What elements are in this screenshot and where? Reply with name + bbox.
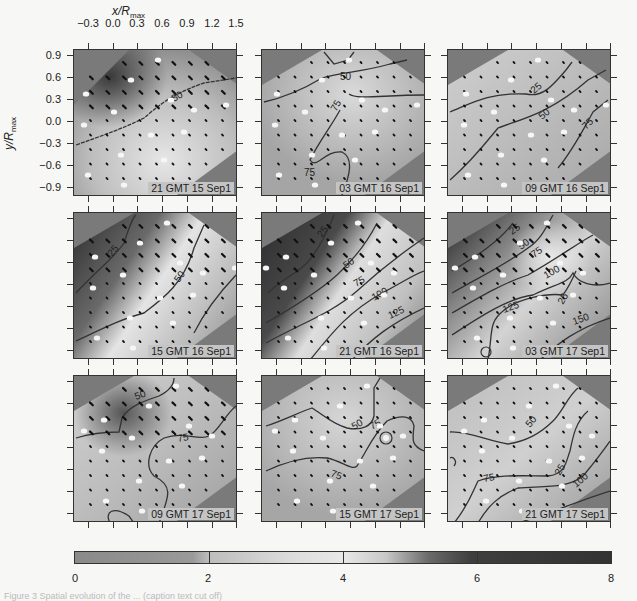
axis-tick xyxy=(425,262,431,263)
x-tick-label: −0.3 xyxy=(77,17,99,29)
axis-tick xyxy=(88,522,89,528)
axis-tick xyxy=(487,196,488,202)
axis-tick xyxy=(237,165,243,166)
contour-plot: 25 50 75 100 125 xyxy=(262,213,425,359)
x-tick-label: 0.0 xyxy=(105,17,120,29)
axis-tick xyxy=(611,284,617,285)
axis-tick xyxy=(276,196,277,202)
x-tick-label: 1.5 xyxy=(228,17,243,29)
axis-tick xyxy=(237,403,243,404)
axis-tick xyxy=(325,359,326,365)
axis-tick xyxy=(137,522,138,528)
y-tick-label: 0.9 xyxy=(25,49,61,61)
timestamp-label: 21 GMT 15 Sep1 xyxy=(148,182,234,194)
axis-tick xyxy=(237,143,243,144)
axis-tick xyxy=(212,522,213,528)
axis-tick xyxy=(350,196,351,202)
axis-tick xyxy=(162,196,163,202)
axis-tick xyxy=(325,522,326,528)
axis-tick xyxy=(237,381,243,382)
axis-tick xyxy=(350,359,351,365)
panel-03gmt-17sep: 25 50 75 100 25 125 150 03 GMT 17 Sep1 xyxy=(447,212,611,359)
contour-plot: 50 xyxy=(74,50,237,196)
axis-tick xyxy=(236,359,237,365)
axis-tick xyxy=(187,359,188,365)
axis-tick xyxy=(611,99,617,100)
axis-tick xyxy=(424,522,425,528)
axis-tick xyxy=(237,55,243,56)
axis-tick xyxy=(237,469,243,470)
axis-tick xyxy=(400,522,401,528)
axis-tick xyxy=(425,55,431,56)
svg-text:50: 50 xyxy=(340,71,352,82)
axis-tick xyxy=(586,359,587,365)
contour-plot: 50 75 75 xyxy=(262,376,425,522)
axis-tick xyxy=(237,513,243,514)
x-tick-label: 0.6 xyxy=(154,17,169,29)
axis-tick xyxy=(237,99,243,100)
colorbar-tick-label: 0 xyxy=(72,572,78,584)
timestamp-label: 03 GMT 16 Sep1 xyxy=(336,182,422,194)
axis-tick xyxy=(350,522,351,528)
timestamp-label: 09 GMT 17 Sep1 xyxy=(148,508,234,520)
colorbar-tick-label: 2 xyxy=(205,572,211,584)
axis-tick xyxy=(237,187,243,188)
contour-plot: 25 50 75 100 25 125 150 xyxy=(448,213,611,359)
figure-caption: Figure 3 Spatial evolution of the ... (c… xyxy=(4,591,222,601)
axis-tick xyxy=(237,425,243,426)
axis-tick xyxy=(325,196,326,202)
axis-tick xyxy=(611,447,617,448)
contour-plot: 25 50 xyxy=(74,213,237,359)
axis-tick xyxy=(487,522,488,528)
axis-tick xyxy=(236,522,237,528)
y-axis-title: y/Rmax xyxy=(2,117,18,150)
axis-tick xyxy=(212,359,213,365)
axis-tick xyxy=(611,425,617,426)
timestamp-label: 03 GMT 17 Sep1 xyxy=(522,345,608,357)
axis-tick xyxy=(425,381,431,382)
axis-tick xyxy=(236,196,237,202)
axis-tick xyxy=(237,262,243,263)
axis-tick xyxy=(611,350,617,351)
panel-09gmt-17sep: 50 75 09 GMT 17 Sep1 xyxy=(73,375,237,522)
axis-tick xyxy=(137,196,138,202)
axis-tick xyxy=(511,359,512,365)
axis-tick xyxy=(611,328,617,329)
axis-tick xyxy=(237,447,243,448)
axis-tick xyxy=(88,196,89,202)
axis-tick xyxy=(425,491,431,492)
panel-15gmt-16sep: 25 50 15 GMT 16 Sep1 xyxy=(73,212,237,359)
axis-tick xyxy=(375,522,376,528)
axis-tick xyxy=(611,121,617,122)
panel-21gmt-15sep: 50 21 GMT 15 Sep1 xyxy=(73,49,237,196)
axis-tick xyxy=(425,218,431,219)
axis-tick xyxy=(425,513,431,514)
axis-tick xyxy=(425,143,431,144)
axis-tick xyxy=(424,359,425,365)
axis-tick xyxy=(611,143,617,144)
timestamp-label: 15 GMT 17 Sep1 xyxy=(336,508,422,520)
timestamp-label: 09 GMT 16 Sep1 xyxy=(522,182,608,194)
axis-tick xyxy=(586,522,587,528)
axis-tick xyxy=(561,196,562,202)
axis-tick xyxy=(536,522,537,528)
axis-tick xyxy=(301,359,302,365)
axis-tick xyxy=(487,359,488,365)
axis-tick xyxy=(462,359,463,365)
y-tick-label: 0.6 xyxy=(25,71,61,83)
axis-tick xyxy=(425,99,431,100)
axis-tick xyxy=(462,196,463,202)
axis-tick xyxy=(425,284,431,285)
axis-tick xyxy=(425,425,431,426)
axis-tick xyxy=(237,240,243,241)
axis-tick xyxy=(610,359,611,365)
x-tick-label: 0.9 xyxy=(179,17,194,29)
axis-tick xyxy=(610,196,611,202)
timestamp-label: 15 GMT 16 Sep1 xyxy=(148,345,234,357)
axis-tick xyxy=(611,218,617,219)
axis-tick xyxy=(611,240,617,241)
axis-tick xyxy=(425,403,431,404)
panel-03gmt-16sep: 50 75 75 03 GMT 16 Sep1 xyxy=(261,49,425,196)
contour-plot: 50 75 75 xyxy=(262,50,425,196)
y-tick-label: −0.3 xyxy=(25,137,61,149)
